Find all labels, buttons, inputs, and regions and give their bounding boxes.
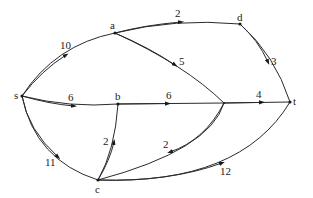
node-label-t: t xyxy=(293,95,296,107)
edge-weight-s-c: 11 xyxy=(45,156,56,168)
node-label-d: d xyxy=(237,11,243,23)
edge-s-c: 11 xyxy=(22,96,98,180)
edge-a-d: 2 xyxy=(115,7,240,33)
edge-x-t: 4 xyxy=(224,88,290,103)
node-c: c xyxy=(95,178,100,195)
node-label-b: b xyxy=(115,90,121,102)
edge-weight-c-b: 2 xyxy=(103,135,109,147)
edge-weight-d-t: 3 xyxy=(271,55,277,67)
edge-weight-x-c: 2 xyxy=(163,138,169,150)
edge-weight-a-x: 5 xyxy=(179,55,185,67)
edge-c-b: 2 xyxy=(98,104,118,180)
edge-weight-c-t: 12 xyxy=(220,165,231,177)
graph-diagram: 10 2 3 5 6 6 4 11 xyxy=(0,0,313,198)
edge-weight-x-t: 4 xyxy=(256,88,262,100)
edge-weight-s-b: 6 xyxy=(68,91,74,103)
edge-s-b: 6 xyxy=(22,91,118,106)
node-label-a: a xyxy=(110,19,115,31)
edge-weight-a-d: 2 xyxy=(175,7,181,19)
edge-weight-s-a: 10 xyxy=(60,39,72,51)
edge-d-t: 3 xyxy=(240,24,290,102)
node-a: a xyxy=(110,19,117,35)
edge-s-a: 10 xyxy=(22,33,115,96)
node-t: t xyxy=(288,95,296,107)
node-label-c: c xyxy=(95,183,100,195)
node-b: b xyxy=(115,90,121,106)
node-junction xyxy=(223,102,225,104)
edge-weight-b-x: 6 xyxy=(166,89,172,101)
edge-b-x: 6 xyxy=(118,89,224,104)
node-label-s: s xyxy=(14,89,18,101)
edge-c-t: 12 xyxy=(98,102,290,180)
